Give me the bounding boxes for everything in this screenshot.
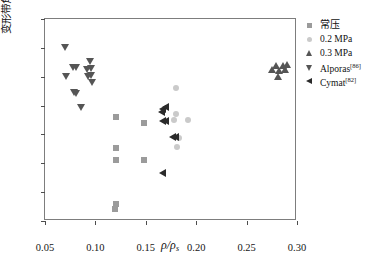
y-axis-tick [41, 192, 45, 193]
circle-icon [303, 33, 315, 45]
data-point [171, 117, 177, 123]
data-point [173, 111, 179, 117]
data-point [274, 73, 282, 80]
data-point [112, 206, 118, 212]
data-point [158, 108, 165, 116]
legend-reference-superscript: [86] [350, 62, 361, 69]
x-axis-tick-label: 0.15 [124, 243, 168, 254]
data-point [84, 73, 92, 80]
legend-item-label: 0.2 MPa [320, 34, 352, 44]
x-axis-tick [45, 221, 46, 225]
x-axis-tick [95, 221, 96, 225]
y-axis-tick [41, 77, 45, 78]
legend-item-label: 常压 [320, 20, 340, 30]
x-axis-tick [146, 221, 147, 225]
x-axis-tick [297, 221, 298, 225]
data-point [174, 144, 180, 150]
triangle-down-icon [303, 62, 315, 74]
legend-item-3[interactable]: 0.3 MPa [303, 46, 377, 60]
chart-figure: 变形带角度/(°) ρ/ρs 051015202530350.050.100.1… [0, 0, 377, 270]
legend-item-1[interactable]: 常压 [303, 18, 377, 32]
data-point [173, 85, 179, 91]
x-axis-tick-label: 0.25 [225, 243, 269, 254]
data-point [72, 64, 80, 71]
legend-item-2[interactable]: 0.2 MPa [303, 32, 377, 46]
data-point [141, 120, 147, 126]
x-axis-tick-label: 0.20 [174, 243, 218, 254]
data-point [62, 73, 70, 80]
y-axis-tick [41, 163, 45, 164]
data-point [281, 66, 289, 73]
data-point [113, 114, 119, 120]
x-axis-tick-label: 0.05 [23, 243, 67, 254]
legend-item-label: 0.3 MPa [320, 48, 352, 58]
data-point [113, 157, 119, 163]
legend-reference-superscript: [82] [345, 76, 356, 83]
y-axis-tick [41, 106, 45, 107]
data-point [113, 145, 119, 151]
data-point [61, 44, 69, 51]
data-point [141, 157, 147, 163]
y-axis-tick [41, 19, 45, 20]
data-point [172, 133, 179, 141]
plot-frame: 051015202530350.050.100.150.200.250.30 [44, 18, 296, 220]
data-point [159, 169, 166, 177]
legend-item-4[interactable]: Alporas[86] [303, 61, 377, 75]
y-axis-title: 变形带角度/(°) [0, 0, 13, 60]
triangle-up-icon [303, 47, 315, 59]
y-axis-tick [41, 48, 45, 49]
data-point [86, 58, 94, 65]
x-axis-tick [247, 221, 248, 225]
data-point [162, 117, 169, 125]
y-axis-tick [41, 134, 45, 135]
page-top-text-fragment [8, 1, 178, 8]
data-point [77, 104, 85, 111]
data-point [185, 117, 191, 123]
plot-area [45, 19, 295, 219]
legend-item-label: Cymat[82] [320, 75, 356, 88]
x-axis-tick-label: 0.30 [275, 243, 319, 254]
x-axis-tick [196, 221, 197, 225]
x-axis-tick-label: 0.10 [73, 243, 117, 254]
triangle-left-icon [303, 76, 315, 88]
data-point [72, 90, 80, 97]
chart-legend: 常压0.2 MPa0.3 MPaAlporas[86]Cymat[82] [303, 18, 377, 89]
data-point [88, 79, 96, 86]
legend-item-5[interactable]: Cymat[82] [303, 75, 377, 89]
square-icon [303, 19, 315, 31]
legend-item-label: Alporas[86] [320, 61, 361, 74]
